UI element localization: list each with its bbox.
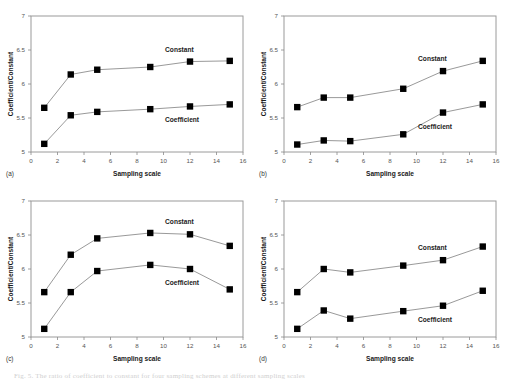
- data-point-marker: [94, 67, 100, 73]
- figure-caption: Fig. 5. The ratio of coefficient to cons…: [0, 372, 506, 380]
- x-tick-label: 0: [29, 157, 33, 164]
- data-point-marker: [294, 141, 300, 147]
- x-tick-label: 10: [413, 157, 420, 164]
- x-tick-label: 2: [309, 342, 313, 349]
- figure-caption-strip: Fig. 5. The ratio of coefficient to cons…: [0, 372, 506, 384]
- data-point-marker: [321, 94, 327, 100]
- x-tick-label: 16: [240, 342, 247, 349]
- y-tick-label: 6: [22, 80, 26, 87]
- x-tick-label: 12: [440, 157, 447, 164]
- y-tick-label: 5.5: [269, 299, 278, 306]
- series-label-coefficient: Coefficient: [418, 123, 453, 130]
- data-point-marker: [94, 235, 100, 241]
- y-tick-label: 5: [22, 148, 26, 155]
- data-point-marker: [321, 137, 327, 143]
- x-tick-label: 10: [160, 157, 167, 164]
- y-tick-label: 7: [275, 197, 279, 204]
- x-axis-title: Sampling scale: [366, 170, 414, 178]
- data-point-marker: [321, 266, 327, 272]
- y-tick-label: 6.5: [16, 46, 25, 53]
- x-tick-label: 14: [213, 157, 220, 164]
- series-label-coefficient: Coefficient: [165, 279, 200, 286]
- x-tick-label: 2: [309, 157, 313, 164]
- data-point-marker: [41, 105, 47, 111]
- x-tick-label: 16: [493, 157, 500, 164]
- y-tick-label: 5: [22, 333, 26, 340]
- x-tick-label: 4: [335, 157, 339, 164]
- x-tick-label: 4: [82, 157, 86, 164]
- x-axis-title: Sampling scale: [113, 170, 161, 178]
- x-tick-label: 4: [335, 342, 339, 349]
- data-point-marker: [68, 112, 74, 118]
- data-point-marker: [400, 308, 406, 314]
- x-tick-label: 6: [362, 342, 366, 349]
- chart-panel-a: 024681012141655.566.57Sampling scaleCoef…: [0, 0, 253, 185]
- series-label-constant: Constant: [165, 218, 194, 225]
- data-point-marker: [94, 109, 100, 115]
- x-tick-label: 14: [213, 342, 220, 349]
- y-tick-label: 6: [22, 265, 26, 272]
- data-point-marker: [440, 68, 446, 74]
- series-line-constant: [44, 233, 230, 292]
- data-point-marker: [480, 243, 486, 249]
- data-point-marker: [440, 109, 446, 115]
- data-point-marker: [94, 268, 100, 274]
- data-point-marker: [480, 101, 486, 107]
- data-point-marker: [187, 103, 193, 109]
- data-point-marker: [187, 58, 193, 64]
- data-point-marker: [187, 266, 193, 272]
- y-axis-title: Coefficient/Constant: [260, 236, 267, 301]
- data-point-marker: [400, 131, 406, 137]
- data-point-marker: [227, 286, 233, 292]
- data-point-marker: [347, 269, 353, 275]
- panel-tag: (c): [6, 355, 13, 363]
- data-point-marker: [294, 326, 300, 332]
- y-tick-label: 6.5: [269, 46, 278, 53]
- y-tick-label: 5: [275, 148, 279, 155]
- x-axis-title: Sampling scale: [366, 355, 414, 363]
- x-tick-label: 12: [187, 342, 194, 349]
- data-point-marker: [147, 106, 153, 112]
- x-tick-label: 8: [388, 342, 392, 349]
- y-tick-label: 5.5: [16, 299, 25, 306]
- data-point-marker: [227, 243, 233, 249]
- x-tick-label: 16: [240, 157, 247, 164]
- y-tick-label: 7: [22, 12, 26, 19]
- panel-tag: (b): [259, 170, 267, 178]
- y-tick-label: 6: [275, 80, 279, 87]
- data-point-marker: [440, 257, 446, 263]
- x-tick-label: 6: [109, 342, 113, 349]
- series-label-constant: Constant: [165, 46, 194, 53]
- data-point-marker: [41, 326, 47, 332]
- data-point-marker: [187, 231, 193, 237]
- chart-panel-c: 024681012141655.566.57Sampling scaleCoef…: [0, 185, 253, 370]
- plot-frame: [284, 16, 496, 152]
- data-point-marker: [147, 262, 153, 268]
- y-axis-title: Coefficient/Constant: [7, 51, 14, 116]
- y-tick-label: 5.5: [269, 114, 278, 121]
- x-axis-title: Sampling scale: [113, 355, 161, 363]
- x-tick-label: 12: [440, 342, 447, 349]
- plot-frame: [284, 201, 496, 337]
- series-label-constant: Constant: [418, 244, 447, 251]
- y-axis-title: Coefficient/Constant: [7, 236, 14, 301]
- x-tick-label: 8: [135, 157, 139, 164]
- data-point-marker: [68, 289, 74, 295]
- data-point-marker: [294, 289, 300, 295]
- data-point-marker: [321, 307, 327, 313]
- data-point-marker: [347, 315, 353, 321]
- x-tick-label: 4: [82, 342, 86, 349]
- data-point-marker: [294, 104, 300, 110]
- panel-grid: 024681012141655.566.57Sampling scaleCoef…: [0, 0, 506, 370]
- x-tick-label: 14: [466, 157, 473, 164]
- y-axis-title: Coefficient/Constant: [260, 51, 267, 116]
- x-tick-label: 10: [160, 342, 167, 349]
- x-tick-label: 8: [388, 157, 392, 164]
- series-line-constant: [44, 61, 230, 108]
- y-tick-label: 7: [22, 197, 26, 204]
- x-tick-label: 0: [282, 342, 286, 349]
- x-tick-label: 8: [135, 342, 139, 349]
- data-point-marker: [480, 288, 486, 294]
- chart-panel-d: 024681012141655.566.57Sampling scaleCoef…: [253, 185, 506, 370]
- data-point-marker: [147, 230, 153, 236]
